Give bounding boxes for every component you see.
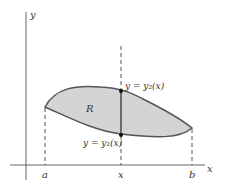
- tick-b-label: b: [189, 169, 195, 180]
- lower-curve-label: y = y₁(x): [82, 138, 123, 148]
- lower-point: [119, 133, 123, 137]
- region-label: R: [85, 103, 94, 114]
- y-axis-label: y: [29, 9, 36, 20]
- region-between-curves-diagram: y x R y = y₂(x) y = y₁(x) a x b: [0, 0, 226, 189]
- tick-x-label: x: [118, 169, 124, 180]
- upper-point: [119, 89, 123, 93]
- region-r: [45, 86, 192, 136]
- tick-a-label: a: [42, 169, 48, 180]
- upper-curve-label: y = y₂(x): [124, 81, 165, 91]
- x-axis-label: x: [207, 163, 213, 174]
